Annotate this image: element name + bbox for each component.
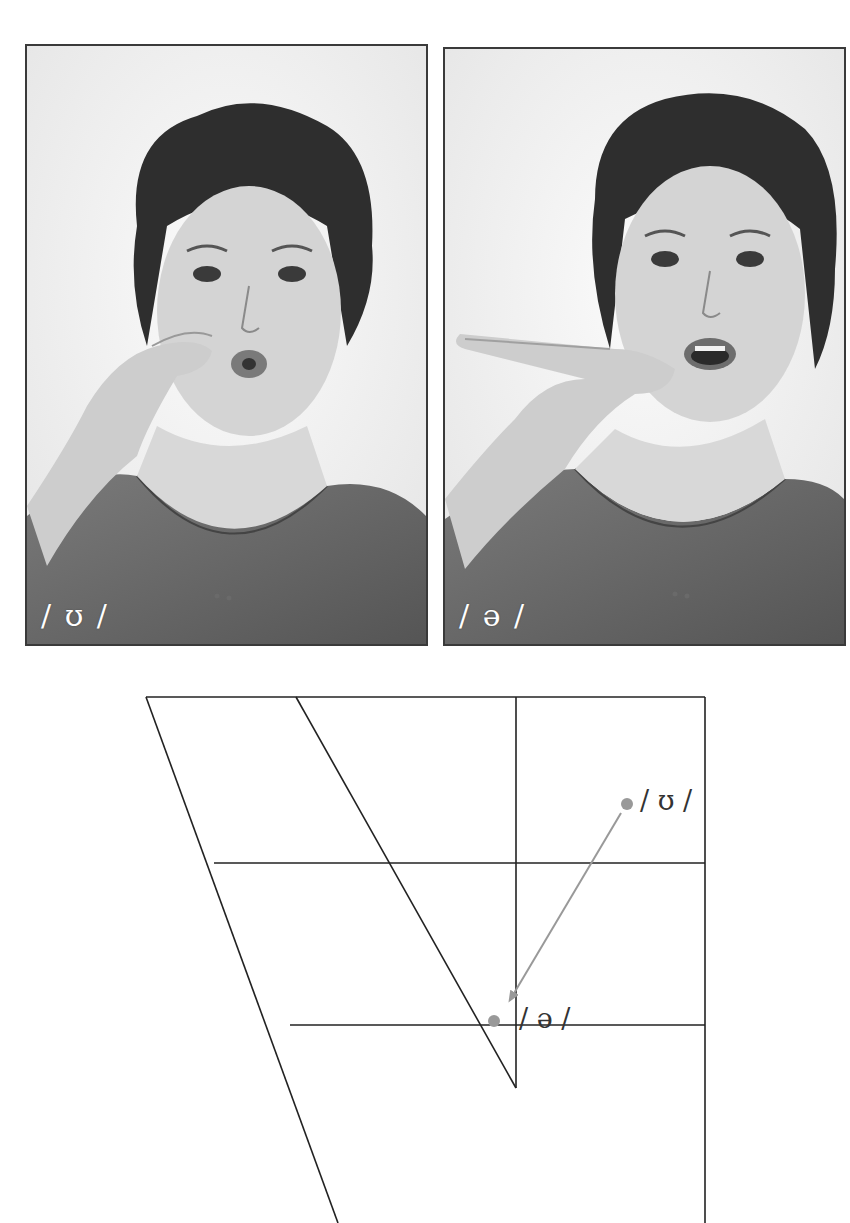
- chart-left-slant-edge: [146, 697, 338, 1223]
- vowel-point-ʊ: [621, 798, 633, 810]
- vowel-point-ə: [488, 1015, 500, 1027]
- chart-grid-lines: [146, 697, 705, 1223]
- chart-label-ʊ: / ʊ /: [640, 785, 692, 816]
- diphthong-arrow: [510, 813, 621, 1000]
- chart-label-ə: / ə /: [519, 1003, 570, 1034]
- chart-central-slant: [296, 697, 516, 1088]
- vowel-quadrilateral-chart: [0, 0, 850, 1223]
